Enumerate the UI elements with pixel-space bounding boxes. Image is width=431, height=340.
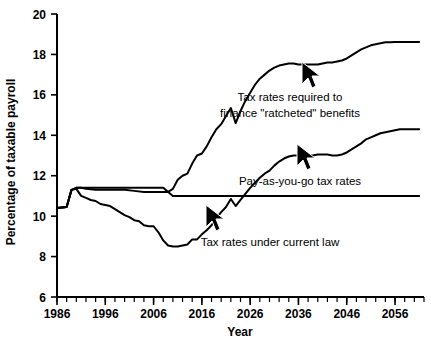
y-tick-label: 18 [33, 48, 47, 62]
x-axis-tick-labels: 19861996200620162026203620462056 [44, 307, 409, 321]
y-axis-tick-labels: 68101214161820 [33, 8, 47, 305]
y-tick-label: 10 [33, 210, 47, 224]
annotation-payg-line1: Pay-as-you-go tax rates [239, 175, 361, 187]
series-lines [57, 42, 419, 247]
x-tick-label: 2006 [140, 307, 167, 321]
x-tick-label: 1996 [92, 307, 119, 321]
annotation-pay-as-you-go: Pay-as-you-go tax rates [239, 144, 361, 187]
x-tick-label: 2036 [285, 307, 312, 321]
annotation-ratcheted-benefits: Tax rates required to finance "ratcheted… [220, 62, 360, 119]
x-tick-label: 2026 [237, 307, 264, 321]
annotation-ratcheted-line1: Tax rates required to [238, 91, 343, 103]
series-line-2 [57, 188, 419, 208]
x-tick-label: 2016 [189, 307, 216, 321]
y-tick-label: 16 [33, 88, 47, 102]
cursor-arrow-icon [302, 62, 320, 88]
x-tick-label: 2056 [382, 307, 409, 321]
axes [57, 14, 424, 297]
y-tick-label: 12 [33, 169, 47, 183]
x-axis-title: Year [227, 325, 253, 339]
x-tick-label: 1986 [44, 307, 71, 321]
y-tick-label: 20 [33, 8, 47, 22]
x-tick-label: 2046 [333, 307, 360, 321]
y-tick-label: 6 [39, 291, 46, 305]
x-axis-ticks [57, 297, 395, 305]
annotation-currentlaw-line1: Tax rates under current law [201, 236, 340, 248]
y-tick-label: 14 [33, 129, 47, 143]
y-axis-title: Percentage of taxable payroll [4, 79, 18, 246]
cursor-arrow-icon [297, 144, 315, 170]
y-tick-label: 8 [39, 250, 46, 264]
annotation-ratcheted-line2: finance "ratcheted" benefits [220, 107, 360, 119]
line-chart: 68101214161820 1986199620062016202620362… [0, 0, 431, 340]
chart-container: 68101214161820 1986199620062016202620362… [0, 0, 431, 340]
